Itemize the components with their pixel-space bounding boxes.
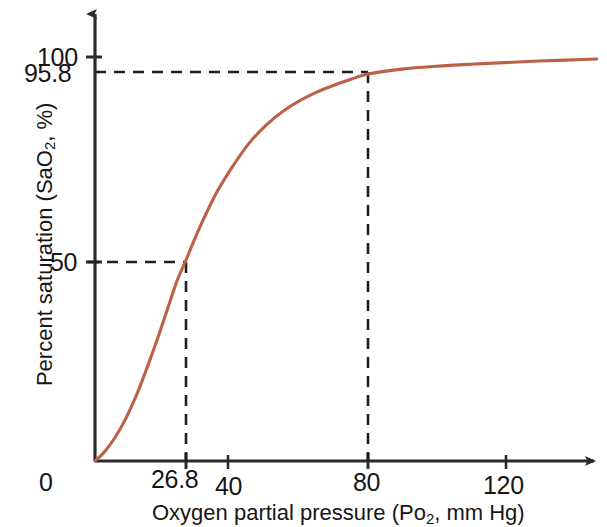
x-tick-label-26-8: 26.8: [151, 467, 198, 492]
x-tick-label-80: 80: [353, 470, 380, 495]
x-tick-label-0: 0: [39, 470, 53, 495]
x-axis-title-pre: Oxygen partial pressure (Po: [152, 500, 426, 525]
y-axis-title-post: , %): [32, 103, 57, 142]
dissociation-curve: [95, 59, 597, 461]
y-axis-title-subscript: 2: [41, 142, 58, 150]
plot-area: [0, 0, 607, 527]
x-axis-title: Oxygen partial pressure (Po2, mm Hg): [152, 502, 525, 527]
x-axis-title-subscript: 2: [426, 510, 434, 527]
y-axis-title-pre: Percent saturation (SaO: [32, 150, 57, 386]
y-tick-label-95-8: 95.8: [24, 61, 71, 86]
x-tick-label-40: 40: [215, 474, 242, 499]
y-axis-title: Percent saturation (SaO2, %): [34, 94, 59, 394]
x-axis-title-post: , mm Hg): [434, 500, 524, 525]
x-tick-label-120: 120: [483, 473, 524, 498]
oxygen-dissociation-chart: 100 95.8 50 0 26.8 40 80 120 Percent sat…: [0, 0, 607, 527]
